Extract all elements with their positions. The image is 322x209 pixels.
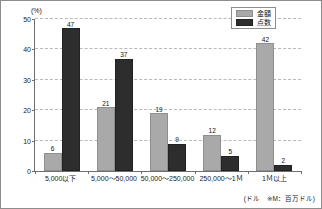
y-tick-label-50: 50 [23, 16, 31, 23]
bar-amount[interactable]: 12 [203, 135, 221, 171]
bar-amount[interactable]: 19 [150, 113, 168, 171]
bar-count[interactable]: 5 [221, 156, 239, 171]
bar-value-label: 37 [120, 52, 127, 59]
bar-value-label: 9 [175, 137, 179, 144]
x-axis-label: 5,000～50,000 [87, 175, 140, 184]
bar-amount[interactable]: 21 [97, 107, 115, 171]
legend-item-amount[interactable]: 金額 [236, 10, 271, 17]
legend-label-count: 点数 [257, 19, 271, 26]
bar-amount[interactable]: 42 [256, 43, 274, 171]
y-tick-label-20: 20 [23, 107, 31, 114]
y-axis-unit-label: (%) [31, 7, 42, 14]
bar-value-label: 12 [209, 128, 216, 135]
x-axis-label: 250,000～1Ｍ [194, 175, 247, 184]
bar-groups: 6472137199125422 [35, 19, 301, 171]
y-tick-label-0: 0 [27, 168, 31, 175]
bar-group: 647 [35, 19, 88, 171]
x-axis-label: 5,000以下 [34, 175, 87, 184]
x-axis-label: 1Ｍ以上 [248, 175, 301, 184]
bar-value-label: 42 [262, 37, 269, 44]
legend-label-amount: 金額 [257, 10, 271, 17]
bar-group: 199 [141, 19, 194, 171]
x-axis-footnote: (ドル ※M：百万ドル) [244, 196, 315, 203]
bar-group: 125 [195, 19, 248, 171]
x-axis-labels: 5,000以下5,000～50,00050,000～250,000250,000… [34, 175, 301, 184]
bar-value-label: 2 [282, 158, 286, 165]
x-tick-mark [88, 171, 89, 174]
x-tick-mark [141, 171, 142, 174]
x-axis-label: 50,000～250,000 [141, 175, 195, 184]
bar-value-label: 47 [67, 22, 74, 29]
bar-value-label: 5 [228, 149, 232, 156]
bar-value-label: 19 [155, 107, 162, 114]
y-tick-label-40: 40 [23, 46, 31, 53]
plot-area: 01020304050 6472137199125422 [34, 19, 301, 172]
x-tick-mark [248, 171, 249, 174]
y-tick-label-30: 30 [23, 76, 31, 83]
bar-group: 422 [248, 19, 301, 171]
legend-item-count[interactable]: 点数 [236, 19, 271, 26]
bar-group: 2137 [88, 19, 141, 171]
chart-figure: (%) 01020304050 6472137199125422 5,000以下… [0, 0, 322, 209]
bar-value-label: 21 [102, 101, 109, 108]
x-tick-mark [35, 171, 36, 174]
bar-count[interactable]: 37 [115, 59, 133, 171]
bar-value-label: 6 [51, 146, 55, 153]
x-tick-mark [195, 171, 196, 174]
legend-swatch-count [236, 19, 253, 26]
legend-swatch-amount [236, 10, 253, 17]
y-tick-label-10: 10 [23, 137, 31, 144]
chart-legend: 金額 点数 [231, 7, 276, 29]
bar-count[interactable]: 9 [168, 144, 186, 171]
bar-count[interactable]: 2 [274, 165, 292, 171]
x-tick-mark [301, 171, 302, 174]
bar-amount[interactable]: 6 [44, 153, 62, 171]
bar-count[interactable]: 47 [62, 28, 80, 171]
